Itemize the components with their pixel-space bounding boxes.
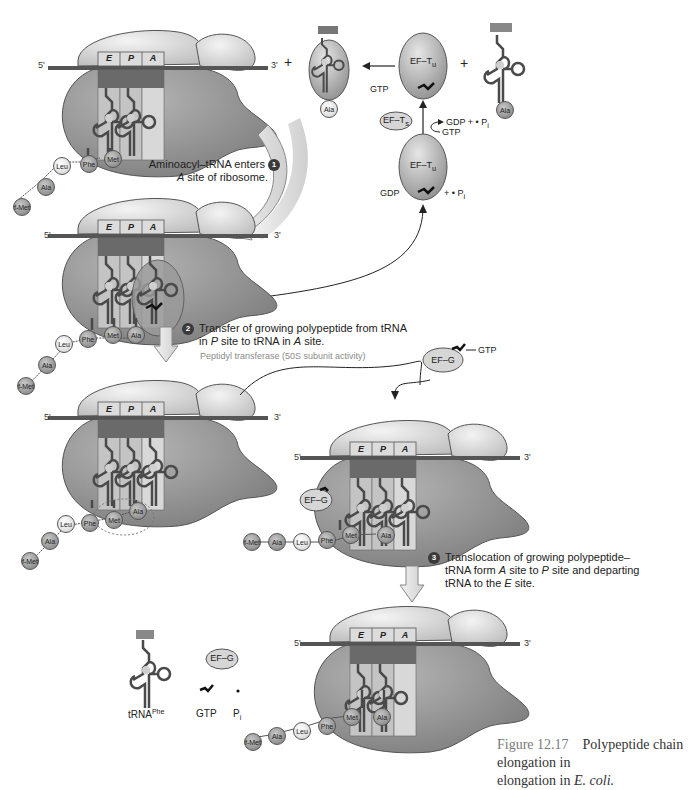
mrna-3prime-3: 3' <box>274 412 281 422</box>
aa-ala-4b: Ala <box>377 526 395 544</box>
mrna-5prime-2: 5' <box>44 230 51 240</box>
ef-tu-label-bottom: EF–Tu <box>405 160 441 173</box>
aa-ala-4: Ala <box>268 533 286 551</box>
site-p-4: P <box>372 444 394 454</box>
aa-ala-3: Ala <box>41 532 59 550</box>
aa-met-3: Met <box>105 511 123 529</box>
aa-ala-free: Ala <box>496 101 514 119</box>
step3-down-arrow <box>400 566 424 602</box>
ef-ts-label: EF–Ts <box>380 115 412 128</box>
mrna-3prime-4: 3' <box>524 452 531 462</box>
aa-leu-5: Leu <box>293 722 311 740</box>
released-gtp-icon <box>200 685 213 691</box>
gdp-label: GDP <box>380 187 400 199</box>
pi-label-released: Pi <box>233 708 241 724</box>
site-a-4: A <box>394 444 416 454</box>
site-e-2: E <box>98 222 120 232</box>
aa-phe-4: Phe <box>318 531 336 549</box>
site-e-4: E <box>350 444 372 454</box>
aa-ala-incoming: Ala <box>320 100 338 118</box>
aa-phe-5: Phe <box>318 717 336 735</box>
aa-leu-1: Leu <box>53 157 71 175</box>
ribosome-3 <box>48 380 277 526</box>
gtp-input-label: GTP <box>442 126 461 138</box>
site-e-5: E <box>350 630 372 640</box>
step-2-text: 2Transfer of growing polypeptide from tR… <box>182 322 422 348</box>
plus-sign-1: + <box>284 54 292 70</box>
aa-met-4: Met <box>342 526 360 544</box>
figure-number: Figure 12.17 <box>497 737 569 752</box>
aa-fmet-4: f-Met <box>243 533 261 551</box>
site-p-5: P <box>372 630 394 640</box>
ef-g-label-released: EF–G <box>206 653 238 663</box>
aa-leu-2: Leu <box>55 335 73 353</box>
mrna-5prime-1: 5' <box>38 60 45 70</box>
mrna-3prime-1: 3' <box>271 60 278 70</box>
trna-phe-label: tRNAPhe <box>128 706 164 721</box>
pi-release-label: + • Pi <box>444 187 465 203</box>
gtp-label-top: GTP <box>370 83 389 95</box>
aa-fmet-1: f-Met <box>13 198 31 216</box>
site-a-2: A <box>142 222 164 232</box>
aa-leu-3: Leu <box>57 515 75 533</box>
mrna-5prime-4: 5' <box>294 452 301 462</box>
aa-ala-1: Ala <box>37 178 55 196</box>
site-p-2: P <box>120 222 142 232</box>
site-a-5: A <box>394 630 416 640</box>
aa-ala-3b: Ala <box>129 502 147 520</box>
released-trna-phe <box>131 630 170 708</box>
step-3-badge: 3 <box>428 552 440 564</box>
gtp-label-efg: GTP <box>478 344 497 356</box>
site-e-1: E <box>98 53 120 63</box>
aa-ala-5: Ala <box>268 727 286 745</box>
aa-fmet-5: f-Met <box>244 733 262 751</box>
aa-met-2: Met <box>104 326 122 344</box>
site-p-3: P <box>120 404 142 414</box>
ef-g-label-1: EF–G <box>427 355 459 365</box>
aa-fmet-2: f-Met <box>17 377 35 395</box>
mrna-3prime-2: 3' <box>274 230 281 240</box>
aa-ala-2: Ala <box>38 356 56 374</box>
peptidyl-transferase-note: Peptidyl transferase (50S subunit activi… <box>200 351 366 361</box>
step-1-badge: 1 <box>268 159 280 171</box>
step-3-text: 3Translocation of growing polypeptide– t… <box>428 551 668 590</box>
aa-fmet-3: f-Met <box>21 552 39 570</box>
ef-g-label-2: EF–G <box>300 495 332 505</box>
gtp-label-released: GTP <box>196 708 217 720</box>
site-e-3: E <box>98 404 120 414</box>
aa-met-5: Met <box>343 708 361 726</box>
aa-leu-4: Leu <box>293 533 311 551</box>
aa-phe-1: Phe <box>80 155 98 173</box>
aa-phe-2: Phe <box>79 330 97 348</box>
aa-met-1: Met <box>104 150 122 168</box>
ef-tu-label-top: EF–Tu <box>405 56 441 69</box>
site-a-1: A <box>142 53 164 63</box>
mrna-5prime-5: 5' <box>294 638 301 648</box>
figure-organism: E. coli. <box>574 773 614 788</box>
aa-ala-5b: Ala <box>373 708 391 726</box>
plus-sign-2: + <box>460 55 468 71</box>
mrna-5prime-3: 5' <box>44 412 51 422</box>
figure-caption: Figure 12.17Polypeptide chain elongation… <box>497 736 694 790</box>
aa-ala-2b: Ala <box>127 326 145 344</box>
mrna-3prime-5: 3' <box>524 638 531 648</box>
site-p-1: P <box>120 53 142 63</box>
step-2-badge: 2 <box>182 323 194 335</box>
site-a-3: A <box>142 404 164 414</box>
step-1-text: Aminoacyl–tRNA enters 1 A site of riboso… <box>135 158 285 184</box>
released-pi-dot <box>236 689 239 692</box>
aa-phe-3: Phe <box>81 514 99 532</box>
